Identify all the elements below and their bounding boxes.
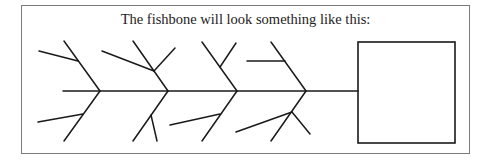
fishbone-diagram: [0, 0, 492, 165]
upper-rib: [271, 42, 306, 91]
lower-sub-branch: [292, 112, 310, 134]
lower-rib: [202, 91, 237, 141]
lower-sub-branch: [151, 115, 157, 141]
lower-sub-branch: [170, 114, 220, 125]
upper-sub-branch: [220, 43, 236, 67]
upper-rib: [64, 41, 100, 91]
upper-sub-branch: [154, 48, 175, 71]
fishbone-head-box: [358, 42, 455, 143]
lower-sub-branch: [38, 114, 83, 122]
upper-rib: [133, 41, 168, 91]
lower-rib: [271, 91, 306, 141]
